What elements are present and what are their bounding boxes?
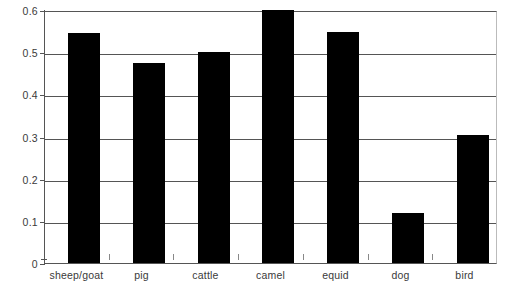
y-axis-tick-label: 0.2 — [6, 175, 38, 186]
y-axis-tick — [40, 95, 45, 96]
bar-chart: 00.10.20.30.40.50.6 sheep/goatpigcattlec… — [0, 0, 508, 291]
y-axis-tick — [40, 180, 45, 181]
x-axis-tick — [432, 254, 433, 260]
y-axis-tick-label: 0.6 — [6, 6, 38, 17]
x-axis-category-label: pig — [109, 270, 174, 281]
y-axis-tick — [40, 264, 45, 265]
x-axis-category-label: bird — [432, 270, 497, 281]
x-axis-category-label: sheep/goat — [44, 270, 109, 281]
y-axis-labels: 00.10.20.30.40.50.6 — [0, 0, 38, 291]
y-axis-tick-label: 0.5 — [6, 48, 38, 59]
x-axis-labels: sheep/goatpigcattlecamelequiddogbird — [44, 270, 497, 290]
x-axis-tick — [173, 254, 174, 260]
bar — [262, 10, 294, 263]
x-axis-tick — [109, 254, 110, 260]
bar — [198, 52, 230, 263]
x-axis-category-label: camel — [238, 270, 303, 281]
y-axis-tick-label: 0.1 — [6, 217, 38, 228]
y-axis-tick-label: 0.3 — [6, 133, 38, 144]
y-axis-tick — [40, 11, 45, 12]
x-axis-category-label: dog — [368, 270, 433, 281]
y-axis-tick-label: 0.4 — [6, 90, 38, 101]
x-axis-tick — [238, 254, 239, 260]
bar — [68, 33, 100, 263]
bar — [327, 32, 359, 263]
x-axis-origin-tick — [41, 259, 47, 260]
x-axis-tick — [368, 254, 369, 260]
x-axis-tick — [303, 254, 304, 260]
y-axis-tick — [40, 222, 45, 223]
bar — [133, 63, 165, 263]
plot-area — [44, 11, 497, 264]
x-axis-category-label: cattle — [173, 270, 238, 281]
y-axis-tick — [40, 138, 45, 139]
y-axis-tick-label: 0 — [6, 259, 38, 270]
bar — [392, 213, 424, 263]
y-axis-tick — [40, 53, 45, 54]
x-axis-category-label: equid — [303, 270, 368, 281]
bar — [457, 135, 489, 263]
